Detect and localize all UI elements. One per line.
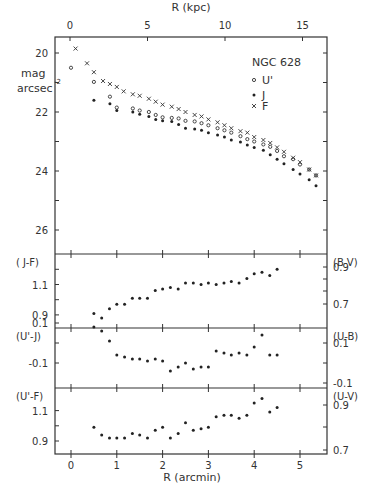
data-point-u (230, 131, 233, 134)
color-tick-label-right: 0.9 (333, 262, 349, 273)
mag-tick-label: 22 (35, 107, 48, 118)
color-tick-label-right: 0.7 (333, 445, 349, 456)
data-point-u (147, 110, 150, 113)
color-data-point (192, 281, 195, 284)
color-data-point (108, 436, 111, 439)
data-point-j (269, 153, 272, 156)
color-data-point (245, 354, 248, 357)
legend-label-u: U' (262, 74, 273, 87)
color-data-point (123, 303, 126, 306)
color-data-point (268, 411, 271, 414)
data-point-f (200, 114, 204, 118)
data-point-j (292, 168, 295, 171)
color-data-point (222, 414, 225, 417)
color-data-point (207, 281, 210, 284)
data-point-f (92, 70, 96, 74)
color-data-point (169, 370, 172, 373)
data-point-j (308, 178, 311, 181)
color-tick-label-left: -0.1 (28, 358, 48, 369)
kpc-tick-label: 5 (144, 20, 150, 31)
data-point-j (131, 111, 134, 114)
color-data-point (215, 415, 218, 418)
data-point-u (184, 119, 187, 122)
mag-tick-label: 24 (35, 166, 48, 177)
data-point-f (222, 123, 226, 127)
data-point-f (193, 113, 197, 117)
color-data-point (268, 354, 271, 357)
data-point-j (92, 99, 95, 102)
color-data-point (253, 346, 256, 349)
data-point-u (131, 107, 134, 110)
data-point-j (239, 141, 242, 144)
data-point-u (276, 149, 279, 152)
data-point-u (92, 80, 95, 83)
color-data-point (154, 289, 157, 292)
color-data-point (238, 281, 241, 284)
top-axis-label: R (kpc) (171, 1, 210, 14)
legend: U' J F (252, 74, 273, 113)
data-point-j (138, 113, 141, 116)
color-data-point (138, 433, 141, 436)
color-data-point (115, 354, 118, 357)
color-data-point (268, 274, 271, 277)
color-data-point (245, 414, 248, 417)
color-data-point (238, 352, 241, 355)
data-point-f (122, 89, 126, 93)
color-data-point (131, 358, 134, 361)
color-data-point (253, 272, 256, 275)
data-point-j (216, 134, 219, 137)
legend-open-circle-icon (252, 78, 255, 81)
chart-svg: R (kpc) mag arcsec -2 NGC 628 U' J F ( J… (0, 0, 378, 493)
color-data-point (177, 366, 180, 369)
data-point-u (154, 113, 157, 116)
mag-tick-label: 26 (35, 225, 48, 236)
color-tick-label-left: 0.9 (32, 436, 48, 447)
data-point-u (177, 117, 180, 120)
color-data-point (238, 417, 241, 420)
panel-jf-left-label: ( J-F) (16, 257, 39, 268)
data-point-u (69, 66, 72, 69)
arcmin-tick-label: 3 (205, 460, 211, 471)
color-data-point (131, 432, 134, 435)
data-point-j (184, 127, 187, 130)
color-data-point (192, 429, 195, 432)
color-tick-label-left: 1.1 (32, 280, 48, 291)
data-point-f (138, 94, 142, 98)
data-point-j (262, 149, 265, 152)
data-point-f (206, 117, 210, 121)
color-data-point (108, 340, 111, 343)
data-point-u (246, 138, 249, 141)
data-point-j (223, 136, 226, 139)
arcmin-tick-label: 0 (68, 460, 74, 471)
data-point-j (299, 172, 302, 175)
data-point-f (161, 103, 165, 107)
data-point-j (200, 129, 203, 132)
color-data-point (161, 360, 164, 363)
data-point-j (315, 184, 318, 187)
color-data-point (260, 271, 263, 274)
color-data-point (123, 356, 126, 359)
color-data-point (276, 268, 279, 271)
data-point-u (138, 109, 141, 112)
mag-ylabel-line2: arcsec (17, 82, 53, 95)
data-point-u (115, 106, 118, 109)
data-point-u (262, 143, 265, 146)
mag-tick-label: 20 (35, 48, 48, 59)
data-point-f (177, 107, 181, 111)
color-data-point (200, 366, 203, 369)
data-point-j (276, 158, 279, 161)
data-point-f (252, 135, 256, 139)
panel-uf-left-label: (U'-F) (16, 391, 43, 402)
panel-uj-left-label: (U'-J) (16, 331, 41, 342)
color-data-point (200, 283, 203, 286)
data-point-j (253, 146, 256, 149)
data-point-f (85, 61, 89, 65)
color-data-point (230, 414, 233, 417)
data-point-f (268, 141, 272, 145)
color-data-point (207, 366, 210, 369)
color-data-point (169, 286, 172, 289)
color-tick-label-right: -0.1 (333, 378, 353, 389)
color-data-point (207, 426, 210, 429)
color-data-point (161, 426, 164, 429)
legend-filled-dot-icon (253, 94, 256, 97)
